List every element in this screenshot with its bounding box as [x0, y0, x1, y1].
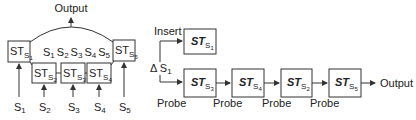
chain-box-st-s5: STS5: [329, 69, 361, 97]
operator-st-s4: STS4: [87, 63, 112, 83]
input-s1: S1: [14, 101, 26, 115]
chain-box-st-s2: STS2: [281, 69, 312, 97]
diagram-canvas: Output STS1 STS5 S1S2S3S4S5 STS2 STS3: [0, 0, 416, 120]
right-diagram: Δ S1 Insert STS1 Probe STS3 Probe STS4 P…: [150, 25, 413, 109]
input-s3: S3: [68, 101, 80, 115]
insert-arrow: [160, 41, 182, 62]
input-s4: S4: [94, 101, 106, 115]
input-s2: S2: [39, 101, 51, 115]
probe-label-4: Probe: [310, 97, 339, 109]
probe-label-3: Probe: [262, 97, 291, 109]
delta-s1-label: Δ S1: [150, 62, 172, 76]
join-arc: [30, 27, 113, 42]
operator-st-s3: STS3: [61, 63, 86, 83]
chain-box-st-s4: STS4: [232, 69, 264, 97]
insert-label: Insert: [154, 25, 182, 37]
center-label: S1S2S3S4S5: [43, 46, 111, 60]
operator-st-s1: STS1: [8, 41, 33, 62]
operator-st-s5: STS5: [113, 40, 138, 61]
probe-arrow: [160, 75, 182, 82]
probe-label-2: Probe: [213, 97, 242, 109]
output-label: Output: [54, 2, 87, 14]
probe-label-1: Probe: [157, 97, 186, 109]
left-diagram: Output STS1 STS5 S1S2S3S4S5 STS2 STS3: [8, 2, 138, 115]
input-s5: S5: [119, 101, 131, 115]
output-label-right: Output: [380, 77, 413, 89]
insert-box-st-s1: STS1: [184, 29, 216, 54]
operator-st-s2: STS2: [32, 63, 57, 83]
chain-box-st-s3: STS3: [184, 69, 216, 97]
